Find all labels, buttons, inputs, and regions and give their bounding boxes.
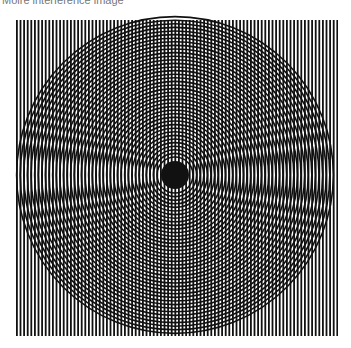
center-dot [161,161,189,189]
moire-pattern [0,0,351,348]
